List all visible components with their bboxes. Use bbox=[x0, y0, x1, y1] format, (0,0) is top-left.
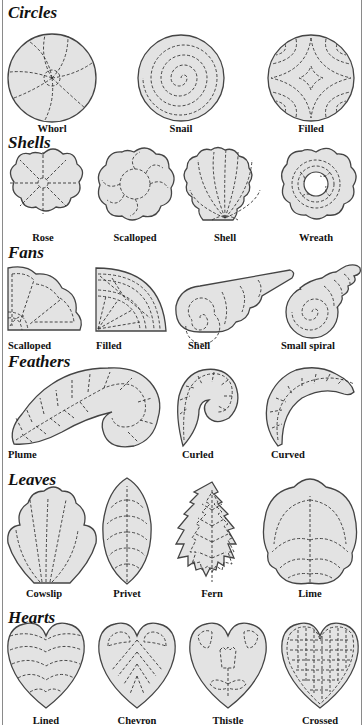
section-title-feathers: Feathers bbox=[8, 352, 70, 372]
shell-illustration bbox=[184, 148, 260, 221]
label-filled: Filled bbox=[291, 123, 331, 134]
lined-heart-illustration bbox=[8, 623, 84, 708]
label-scalloped: Scalloped bbox=[105, 232, 165, 243]
label-thistle: Thistle bbox=[205, 715, 251, 725]
section-title-leaves: Leaves bbox=[8, 470, 56, 490]
chevron-heart-illustration bbox=[99, 623, 175, 708]
label-chevron: Chevron bbox=[112, 715, 162, 725]
label-filled-fan: Filled bbox=[96, 340, 122, 351]
label-shell-fan: Shell bbox=[188, 340, 210, 351]
scalloped-shell-illustration bbox=[98, 148, 174, 220]
label-snail: Snail bbox=[161, 123, 201, 134]
privet-leaf-illustration bbox=[103, 478, 151, 584]
section-title-hearts: Hearts bbox=[8, 608, 55, 628]
label-scalloped-fan: Scalloped bbox=[8, 340, 51, 351]
filled-circle-illustration bbox=[268, 35, 354, 121]
label-cowslip: Cowslip bbox=[19, 588, 69, 599]
shell-fan-illustration bbox=[176, 270, 294, 344]
label-plume: Plume bbox=[8, 449, 37, 460]
section-title-fans: Fans bbox=[8, 243, 44, 263]
label-whorl: Whorl bbox=[32, 123, 72, 134]
label-lined: Lined bbox=[26, 715, 66, 725]
rose-shell-illustration bbox=[10, 149, 83, 214]
label-fern: Fern bbox=[192, 588, 232, 599]
filled-fan-illustration bbox=[96, 268, 166, 331]
crossed-heart-illustration bbox=[282, 623, 358, 708]
cowslip-leaf-illustration bbox=[8, 487, 97, 583]
label-wreath: Wreath bbox=[291, 232, 341, 243]
whorl-circle-illustration bbox=[8, 34, 96, 122]
label-lime: Lime bbox=[290, 588, 330, 599]
section-title-shells: Shells bbox=[8, 133, 51, 153]
label-small-spiral: Small spiral bbox=[281, 340, 335, 351]
section-title-circles: Circles bbox=[8, 3, 57, 23]
label-crossed: Crossed bbox=[295, 715, 345, 725]
thistle-heart-illustration bbox=[190, 623, 266, 708]
label-shell: Shell bbox=[205, 232, 245, 243]
label-curved: Curved bbox=[271, 449, 305, 460]
wreath-shell-illustration bbox=[282, 148, 356, 219]
label-privet: Privet bbox=[107, 588, 147, 599]
curled-feather-illustration bbox=[178, 369, 238, 446]
curved-feather-illustration bbox=[266, 368, 354, 446]
label-rose: Rose bbox=[23, 232, 63, 243]
fern-leaf-illustration bbox=[176, 482, 236, 582]
label-curled: Curled bbox=[182, 449, 214, 460]
snail-circle-illustration bbox=[138, 35, 224, 121]
lime-leaf-illustration bbox=[263, 479, 356, 584]
scalloped-fan-illustration bbox=[8, 267, 81, 330]
small-spiral-fan-illustration bbox=[286, 265, 360, 338]
plume-feather-illustration bbox=[12, 368, 160, 447]
